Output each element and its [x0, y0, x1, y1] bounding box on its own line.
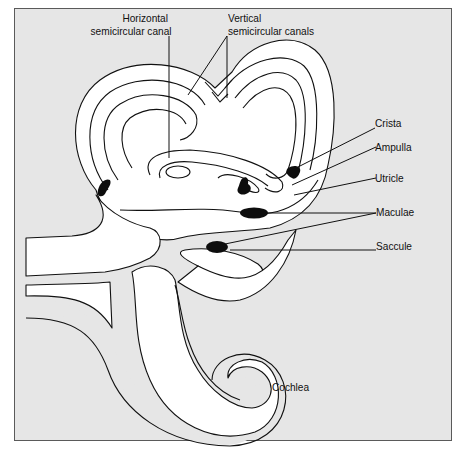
- label-horizontal-canal-line1: Horizontal: [91, 12, 168, 25]
- label-vertical-canals-line2: semicircular canals: [228, 25, 314, 38]
- label-crista: Crista: [375, 117, 401, 130]
- inner-ear-diagram: [0, 0, 462, 450]
- label-horizontal-canal-line2: semicircular canal: [91, 25, 168, 38]
- label-maculae: Maculae: [376, 206, 414, 219]
- label-vertical-canals-line1: Vertical: [228, 12, 314, 25]
- label-ampulla: Ampulla: [375, 141, 412, 154]
- label-vertical-canals: Vertical semicircular canals: [228, 12, 314, 38]
- macula-utricle: [240, 208, 268, 219]
- label-saccule: Saccule: [376, 240, 412, 253]
- macula-saccule: [206, 241, 228, 253]
- label-horizontal-canal: Horizontal semicircular canal: [91, 12, 168, 38]
- label-utricle: Utricle: [375, 172, 404, 185]
- label-cochlea: Cochlea: [272, 381, 309, 394]
